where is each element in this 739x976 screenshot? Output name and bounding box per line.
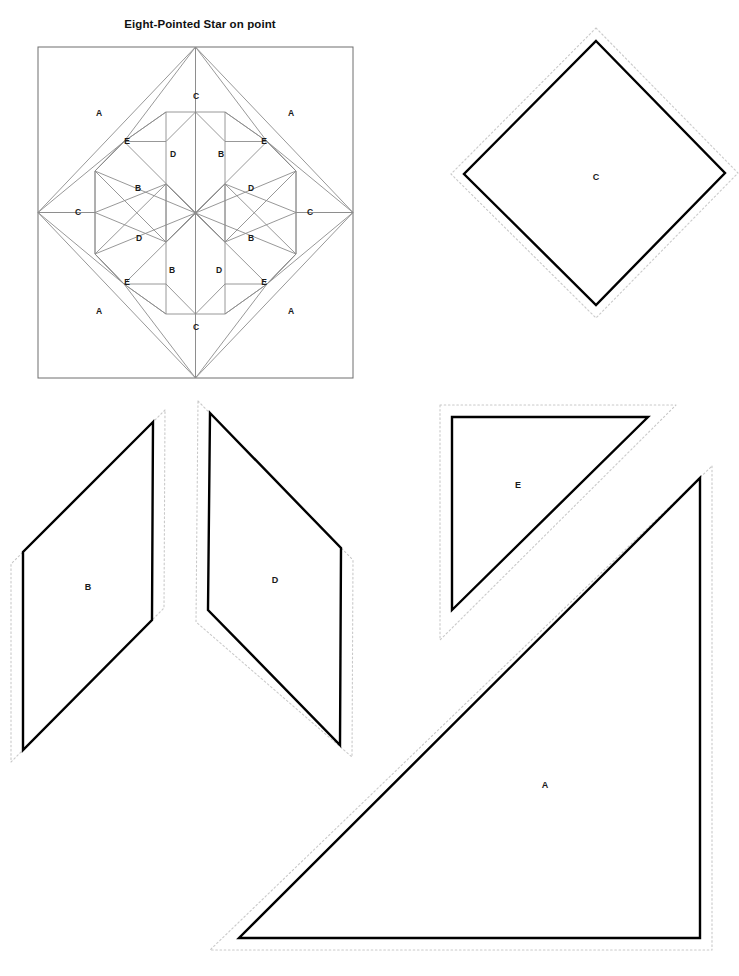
block-piece-label-b: B bbox=[218, 150, 224, 159]
block-piece-label-c: C bbox=[193, 92, 199, 101]
block-piece-label-c: C bbox=[75, 208, 81, 217]
pattern-artwork bbox=[0, 0, 739, 976]
block-piece-label-e: E bbox=[124, 278, 130, 287]
block-piece-label-a: A bbox=[288, 307, 294, 316]
template-label-a: A bbox=[542, 781, 549, 790]
block-piece-label-c: C bbox=[193, 323, 199, 332]
block-piece-label-a: A bbox=[96, 307, 102, 316]
template-label-d: D bbox=[272, 576, 279, 585]
block-piece-label-a: A bbox=[288, 109, 294, 118]
block-piece-label-e: E bbox=[261, 137, 267, 146]
block-piece-label-d: D bbox=[136, 234, 142, 243]
block-piece-label-b: B bbox=[169, 266, 175, 275]
template-label-b: B bbox=[85, 583, 92, 592]
template-label-c: C bbox=[593, 173, 600, 182]
block-piece-label-b: B bbox=[248, 234, 254, 243]
block-piece-label-a: A bbox=[96, 109, 102, 118]
pattern-sheet: Eight-Pointed Star on point bbox=[0, 0, 739, 976]
block-piece-label-c: C bbox=[307, 208, 313, 217]
block-piece-label-e: E bbox=[261, 278, 267, 287]
block-piece-label-d: D bbox=[170, 150, 176, 159]
block-piece-label-b: B bbox=[135, 184, 141, 193]
block-piece-label-e: E bbox=[124, 137, 130, 146]
block-piece-label-d: D bbox=[248, 184, 254, 193]
block-piece-label-d: D bbox=[216, 266, 222, 275]
template-label-e: E bbox=[515, 481, 521, 490]
